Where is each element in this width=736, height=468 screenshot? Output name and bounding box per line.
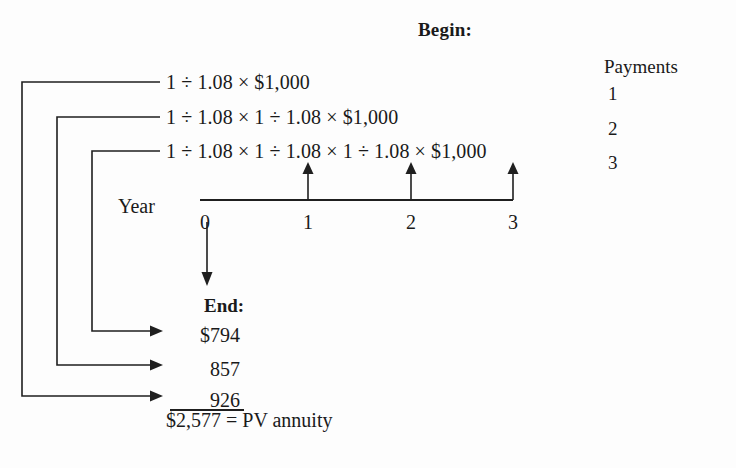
- bracket-arrowhead-2: [150, 360, 163, 371]
- cash-flow-arrowhead-year-1: [303, 162, 314, 174]
- cash-flow-arrowhead-year-3: [508, 162, 519, 174]
- tick-label-year-0: 0: [193, 212, 217, 232]
- discount-bracket-1: [22, 82, 160, 396]
- bracket-arrowhead-1: [150, 391, 163, 402]
- present-value-row: $794: [166, 325, 240, 345]
- tick-label-year-2: 2: [399, 212, 423, 232]
- discount-formula: 1 ÷ 1.08 × $1,000: [166, 72, 310, 92]
- discount-bracket-2: [57, 117, 160, 365]
- discount-formula: 1 ÷ 1.08 × 1 ÷ 1.08 × $1,000: [166, 107, 398, 127]
- payment-number: 1: [608, 84, 618, 103]
- payment-number: 2: [608, 119, 618, 138]
- payments-column-header: Payments: [604, 57, 678, 76]
- cash-flow-arrowhead-year-2: [406, 162, 417, 174]
- year-axis-label: Year: [118, 196, 155, 216]
- discount-bracket-3: [92, 151, 160, 331]
- present-value-row: 926: [166, 390, 240, 410]
- present-value-row: 857: [166, 359, 240, 379]
- tick-label-year-1: 1: [296, 212, 320, 232]
- begin-heading: Begin:: [418, 20, 472, 39]
- present-value-arrowhead: [202, 272, 213, 286]
- bracket-arrowhead-3: [150, 326, 163, 337]
- pv-annuity-diagram: Begin: Payments 1 2 3 1 ÷ 1.08 × $1,000 …: [0, 0, 736, 468]
- end-heading: End:: [204, 296, 244, 315]
- payment-number: 3: [608, 153, 618, 172]
- total-pv-annuity: $2,577 = PV annuity: [166, 410, 332, 430]
- discount-formula: 1 ÷ 1.08 × 1 ÷ 1.08 × 1 ÷ 1.08 × $1,000: [166, 141, 487, 161]
- tick-label-year-3: 3: [501, 212, 525, 232]
